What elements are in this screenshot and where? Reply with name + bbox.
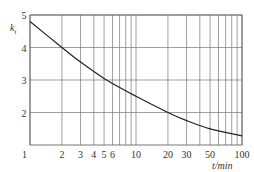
x-tick-label: 50 xyxy=(205,149,215,160)
chart: 2345610203050100 2345 1 kt t/min xyxy=(0,0,254,172)
x-tick-label: 20 xyxy=(163,149,173,160)
y-tick-label: 5 xyxy=(22,10,27,21)
x-tick-label: 5 xyxy=(102,149,107,160)
grid xyxy=(30,15,242,145)
y-tick-label: 4 xyxy=(22,43,27,54)
x-tick-label: 100 xyxy=(235,149,250,160)
y-tick-label: 2 xyxy=(22,108,27,119)
x-tick-label: 30 xyxy=(182,149,192,160)
x-tick-label: 6 xyxy=(110,149,115,160)
y-axis-label-sub: t xyxy=(14,28,16,36)
y-tick-label: 3 xyxy=(22,75,27,86)
origin-label: 1 xyxy=(22,149,27,160)
x-tick-label: 4 xyxy=(91,149,96,160)
y-tick-labels: 2345 xyxy=(22,10,27,119)
x-tick-labels: 2345610203050100 xyxy=(59,149,249,160)
y-axis-label: kt xyxy=(10,22,16,36)
x-axis-label: t/min xyxy=(212,160,233,171)
x-tick-label: 2 xyxy=(59,149,64,160)
x-tick-label: 3 xyxy=(78,149,83,160)
x-tick-label: 10 xyxy=(131,149,141,160)
